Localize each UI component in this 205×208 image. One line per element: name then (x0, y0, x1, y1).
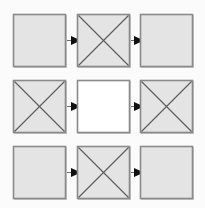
box-rect (14, 147, 66, 199)
box-layer (14, 15, 194, 200)
node-plain-square-r3c1[interactable] (14, 147, 67, 200)
box-rect (14, 15, 66, 67)
box-rect (78, 81, 130, 133)
node-crossed-square-r2c1[interactable] (14, 81, 67, 134)
box-rect (141, 147, 193, 199)
box-rect (141, 15, 193, 67)
node-plain-square-r1c1[interactable] (14, 15, 67, 68)
node-crossed-square-r1c2[interactable] (78, 15, 131, 68)
node-plain-square-r3c3[interactable] (141, 147, 194, 200)
diagram-canvas (0, 0, 205, 208)
node-empty-square-r2c2[interactable] (78, 81, 131, 134)
flow-diagram (0, 0, 205, 208)
node-crossed-square-r2c3[interactable] (141, 81, 194, 134)
node-plain-square-r1c3[interactable] (141, 15, 194, 68)
node-crossed-square-r3c2[interactable] (78, 147, 131, 200)
